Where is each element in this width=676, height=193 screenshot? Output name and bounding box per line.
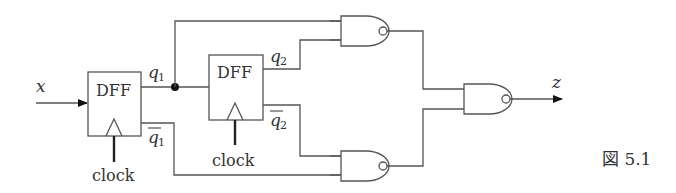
nand-out-bubble [502,95,510,103]
q1-label: q 1 [148,62,165,84]
circuit-diagram: x DFF clock q 1 q 1 DFF clock q 2 q [0,0,676,193]
q2-bar-label: q 2 [270,110,287,132]
dff-2: DFF clock [209,55,263,170]
input-label-x: x [36,76,46,96]
q1-bar-label: q 1 [148,127,165,149]
svg-text:1: 1 [158,71,165,84]
nand-gate-output [464,84,512,114]
nand-top-bubble [379,27,387,35]
nand-gate-bottom [330,151,389,181]
dff-2-clock-label: clock [212,151,255,170]
dff-1: DFF clock [88,72,141,185]
svg-text:2: 2 [280,119,287,132]
output-label-z: z [551,72,562,92]
dff-2-label: DFF [217,63,252,82]
dff-1-clock-label: clock [92,166,135,185]
nand-gate-top [330,16,389,46]
svg-text:1: 1 [158,136,165,149]
figure-caption: 図 5.1 [602,149,651,169]
wire-nand-top-to-nand-out [387,31,464,89]
nand-bottom-bubble [379,162,387,170]
dff-1-label: DFF [96,81,131,100]
wire-nand-bottom-to-nand-out [387,109,464,166]
q2-label: q 2 [270,46,287,68]
svg-text:2: 2 [280,55,287,68]
